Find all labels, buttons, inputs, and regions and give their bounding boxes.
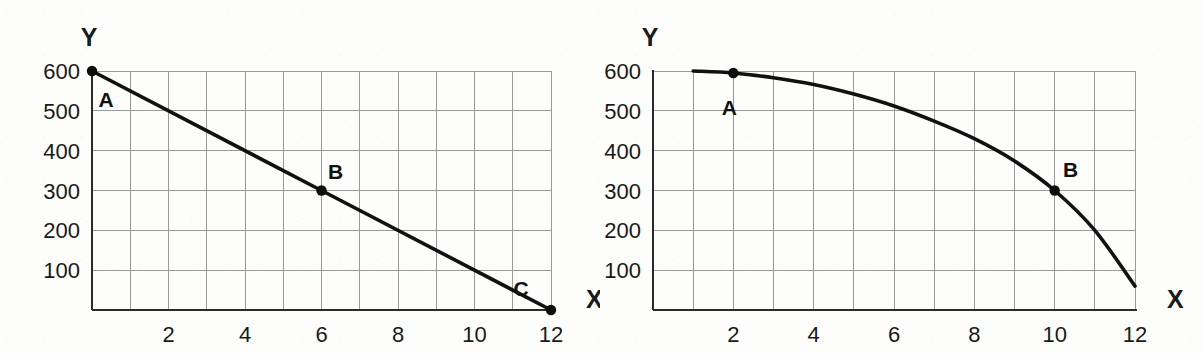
x-tick-label: 2 xyxy=(727,322,739,347)
x-axis-title: X xyxy=(586,285,600,313)
y-tick-label: 300 xyxy=(43,179,80,204)
y-tick-label: 400 xyxy=(604,139,641,164)
chart-panel-right: 10020030040050060024681012YXAB xyxy=(600,0,1203,353)
figure-canvas: 10020030040050060024681012YXABC 10020030… xyxy=(0,0,1203,353)
y-tick-label: 200 xyxy=(43,218,80,243)
x-tick-labels: 24681012 xyxy=(162,322,563,347)
y-tick-label: 500 xyxy=(604,99,641,124)
data-point-marker-a xyxy=(728,68,738,78)
x-axis-title: X xyxy=(1167,285,1184,313)
data-point-marker-b xyxy=(1049,185,1059,195)
x-tick-label: 4 xyxy=(808,322,820,347)
x-tick-label: 2 xyxy=(162,322,174,347)
x-tick-labels: 24681012 xyxy=(727,322,1147,347)
y-tick-label: 600 xyxy=(43,59,80,84)
y-tick-labels: 100200300400500600 xyxy=(604,59,641,283)
x-tick-label: 12 xyxy=(539,322,563,347)
point-label-a: A xyxy=(98,88,113,111)
x-tick-label: 4 xyxy=(239,322,251,347)
y-tick-labels: 100200300400500600 xyxy=(43,59,80,283)
left-chart-plot: 10020030040050060024681012YXABC xyxy=(0,0,600,353)
x-tick-label: 6 xyxy=(315,322,327,347)
y-tick-label: 600 xyxy=(604,59,641,84)
x-tick-label: 8 xyxy=(392,322,404,347)
y-axis-title: Y xyxy=(642,23,659,51)
x-tick-label: 6 xyxy=(888,322,900,347)
y-tick-label: 200 xyxy=(604,218,641,243)
y-axis-title: Y xyxy=(81,23,98,51)
x-tick-label: 10 xyxy=(1042,322,1066,347)
point-label-b: B xyxy=(1063,158,1078,181)
y-tick-label: 300 xyxy=(604,179,641,204)
point-annotations: AB xyxy=(722,68,1079,196)
y-tick-label: 500 xyxy=(43,99,80,124)
point-label-c: C xyxy=(513,277,528,300)
x-tick-label: 10 xyxy=(462,322,486,347)
y-tick-label: 400 xyxy=(43,139,80,164)
y-tick-label: 100 xyxy=(604,258,641,283)
point-label-a: A xyxy=(722,96,737,119)
x-tick-label: 12 xyxy=(1123,322,1147,347)
data-point-marker-b xyxy=(316,185,326,195)
point-label-b: B xyxy=(328,160,343,183)
y-tick-label: 100 xyxy=(43,258,80,283)
data-point-marker-a xyxy=(87,66,97,76)
chart-panel-left: 10020030040050060024681012YXABC xyxy=(0,0,600,353)
right-chart-plot: 10020030040050060024681012YXAB xyxy=(600,0,1203,353)
x-tick-label: 8 xyxy=(968,322,980,347)
data-point-marker-c xyxy=(546,305,556,315)
